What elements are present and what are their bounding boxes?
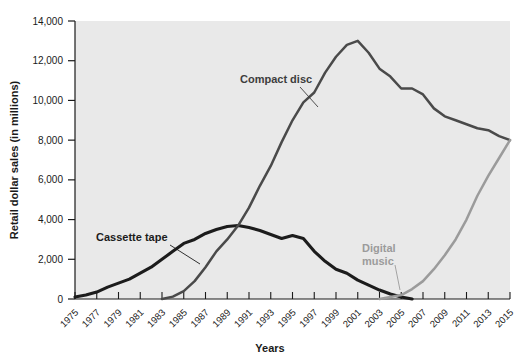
y-tick-label: 8,000 [38, 135, 63, 146]
x-tick-label: 1985 [166, 307, 189, 330]
x-tick-label: 2013 [471, 307, 494, 330]
x-tick-label: 1979 [101, 307, 124, 330]
x-tick-label: 1993 [253, 307, 276, 330]
y-tick-label: 12,000 [32, 55, 63, 66]
x-tick-label: 1997 [297, 307, 320, 330]
x-axis-tick-labels: 1975197719791981198319851987198919911993… [58, 307, 516, 330]
x-tick-label: 2009 [427, 307, 450, 330]
y-tick-label: 10,000 [32, 95, 63, 106]
y-tick-label: 6,000 [38, 174, 63, 185]
x-tick-label: 2003 [362, 307, 385, 330]
x-tick-label: 2007 [406, 307, 429, 330]
y-tick-label: 2,000 [38, 254, 63, 265]
series-label-text: Compact disc [240, 73, 312, 85]
x-tick-label: 1977 [79, 307, 102, 330]
x-tick-label: 1987 [188, 307, 211, 330]
y-axis-title: Retail dollar sales (in millions) [8, 81, 20, 240]
y-axis-ticks [68, 21, 75, 299]
x-tick-label: 1975 [58, 307, 81, 330]
x-tick-label: 1981 [123, 307, 146, 330]
x-tick-label: 2005 [384, 307, 407, 330]
y-tick-label: 0 [57, 294, 63, 305]
x-tick-label: 2011 [450, 307, 472, 329]
series-label-text: Cassette tape [96, 231, 168, 243]
y-axis-tick-labels: 02,0004,0006,0008,00010,00012,00014,000 [32, 16, 63, 305]
x-tick-label: 1995 [275, 307, 298, 330]
x-tick-label: 1999 [319, 307, 342, 330]
chart-figure: 02,0004,0006,0008,00010,00012,00014,000 … [0, 0, 523, 361]
x-tick-label: 2015 [493, 307, 516, 330]
x-tick-label: 1983 [145, 307, 168, 330]
x-axis-title: Years [255, 342, 284, 354]
y-tick-label: 14,000 [32, 16, 63, 27]
series-label-text: Digitalmusic [362, 242, 396, 267]
x-axis-ticks [75, 292, 510, 299]
x-tick-label: 1991 [232, 307, 255, 330]
line-chart: 02,0004,0006,0008,00010,00012,00014,000 … [0, 0, 523, 361]
y-tick-label: 4,000 [38, 214, 63, 225]
x-tick-label: 2001 [340, 307, 363, 330]
x-tick-label: 1989 [210, 307, 233, 330]
